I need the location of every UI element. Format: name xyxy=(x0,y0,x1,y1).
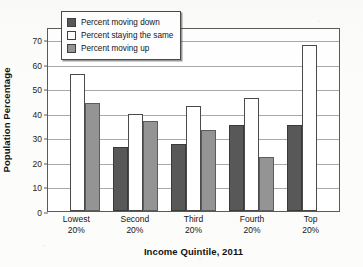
y-axis-label-container: Population Percentage xyxy=(8,28,24,212)
x-axis-category-label: Top20% xyxy=(283,214,339,246)
legend-item: Percent staying the same xyxy=(67,29,173,42)
legend-item-label: Percent moving up xyxy=(81,44,149,53)
y-axis-label: Population Percentage xyxy=(1,67,12,172)
bar-up xyxy=(201,130,216,211)
chart-legend: Percent moving downPercent staying the s… xyxy=(61,11,181,60)
x-axis-categories: Lowest20%Second20%Third20%Fourth20%Top20… xyxy=(47,214,340,246)
bar-group xyxy=(287,29,332,211)
legend-item-label: Percent moving down xyxy=(81,18,160,27)
x-category-percent: 20% xyxy=(283,225,339,236)
x-category-name: Second xyxy=(107,214,163,225)
x-category-percent: 20% xyxy=(48,225,104,236)
legend-item: Percent moving down xyxy=(67,16,173,29)
bar-group xyxy=(229,29,274,211)
bar-down xyxy=(113,147,128,211)
bar-down xyxy=(287,125,302,211)
bar-chart-figure: Population Percentage 010203040506070 Pe… xyxy=(0,0,363,267)
bar-same xyxy=(128,114,143,211)
legend-swatch-down xyxy=(67,18,76,27)
x-category-percent: 20% xyxy=(224,225,280,236)
x-category-name: Top xyxy=(283,214,339,225)
x-category-percent: 20% xyxy=(107,225,163,236)
x-axis-label: Income Quintile, 2011 xyxy=(47,246,340,257)
bar-down xyxy=(171,144,186,211)
x-axis-category-label: Lowest20% xyxy=(48,214,104,246)
bar-same xyxy=(186,106,201,211)
x-axis-category-label: Third20% xyxy=(165,214,221,246)
bar-up xyxy=(143,121,158,211)
bar-up xyxy=(259,157,274,211)
legend-item: Percent moving up xyxy=(67,42,173,55)
bar-same xyxy=(70,74,85,211)
bar-down xyxy=(229,125,244,211)
x-category-name: Lowest xyxy=(48,214,104,225)
bar-same xyxy=(244,98,259,211)
x-axis-category-label: Fourth20% xyxy=(224,214,280,246)
bar-same xyxy=(302,45,317,211)
x-category-name: Third xyxy=(165,214,221,225)
bar-up xyxy=(85,103,100,211)
x-category-percent: 20% xyxy=(165,225,221,236)
x-axis-category-label: Second20% xyxy=(107,214,163,246)
legend-item-label: Percent staying the same xyxy=(81,31,173,40)
x-category-name: Fourth xyxy=(224,214,280,225)
legend-swatch-up xyxy=(67,44,76,53)
legend-swatch-same xyxy=(67,31,76,40)
